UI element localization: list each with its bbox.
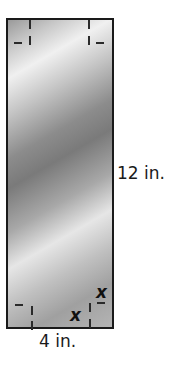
height-label: 12 in. — [117, 163, 165, 183]
bottom-left-vertical-dash-2 — [31, 321, 33, 330]
width-label: 4 in. — [39, 331, 76, 351]
top-right-vertical-dash-2 — [88, 36, 90, 45]
corner-variable-label-vertical: x — [96, 282, 107, 302]
bottom-left-horizontal-dash — [15, 304, 23, 306]
top-right-horizontal-dash — [96, 42, 104, 44]
top-left-horizontal-dash — [14, 42, 22, 44]
bottom-right-horizontal-dash — [97, 302, 105, 304]
bottom-right-vertical-dash-1 — [89, 303, 91, 312]
corner-variable-label-horizontal: x — [70, 305, 81, 325]
top-left-vertical-dash-2 — [29, 36, 31, 45]
top-left-vertical-dash-1 — [29, 20, 31, 29]
bottom-left-vertical-dash-1 — [31, 306, 33, 315]
top-right-vertical-dash-1 — [88, 20, 90, 29]
bottom-right-vertical-dash-2 — [89, 319, 91, 328]
